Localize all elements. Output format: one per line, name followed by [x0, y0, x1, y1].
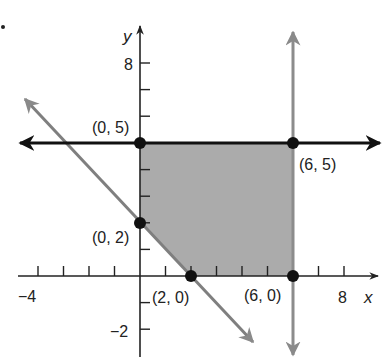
tick-label-x-8: 8: [338, 289, 347, 306]
label-point-0-2: (0, 2): [92, 229, 129, 246]
shaded-region: [140, 143, 293, 276]
graph: y x 8 −2 −4 8 (0, 5) (6, 5) (0, 2) (2, 0…: [0, 0, 386, 364]
tick-label-y-8: 8: [124, 56, 133, 73]
label-point-6-0: (6, 0): [244, 287, 281, 304]
stray-dot: [1, 25, 5, 29]
tick-label-y-neg2: −2: [110, 323, 128, 340]
point-2-0: [185, 270, 197, 282]
y-axis-label: y: [122, 27, 133, 46]
label-point-6-5: (6, 5): [299, 156, 336, 173]
label-point-2-0: (2, 0): [152, 289, 189, 306]
point-6-0: [287, 270, 299, 282]
x-axis-label: x: [363, 288, 373, 307]
point-0-2: [134, 217, 146, 229]
point-6-5: [287, 137, 299, 149]
label-point-0-5: (0, 5): [92, 119, 129, 136]
tick-label-x-neg4: −4: [18, 288, 36, 305]
point-0-5: [134, 137, 146, 149]
